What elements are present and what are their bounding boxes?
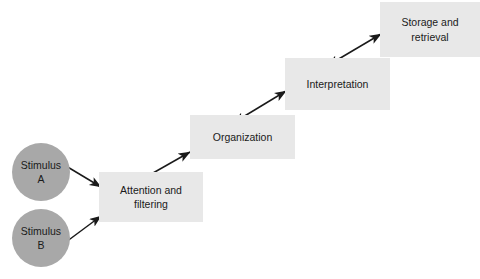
node-interpretation-label: Interpretation [307, 77, 369, 91]
connector-interpretation-to-storage [337, 34, 381, 60]
node-interpretation: Interpretation [285, 58, 390, 110]
node-attention-and-filtering-label: Attention and filtering [120, 183, 182, 211]
connector-stimulus-a-to-attention [66, 166, 101, 187]
connector-organization-to-interpretation [243, 91, 286, 117]
node-attention-and-filtering: Attention and filtering [99, 172, 203, 222]
node-stimulus-b-label: Stimulus B [21, 224, 61, 252]
node-stimulus-a: Stimulus A [12, 143, 70, 201]
connector-stimulus-b-to-attention [66, 216, 101, 242]
node-stimulus-a-label: Stimulus A [21, 158, 61, 186]
node-storage-and-retrieval: Storage and retrieval [380, 2, 480, 57]
node-organization: Organization [190, 115, 295, 159]
diagram-canvas: Stimulus A Stimulus B Attention and filt… [0, 0, 480, 279]
node-stimulus-b: Stimulus B [12, 209, 70, 267]
node-storage-and-retrieval-label: Storage and retrieval [401, 15, 458, 43]
node-organization-label: Organization [213, 130, 273, 144]
